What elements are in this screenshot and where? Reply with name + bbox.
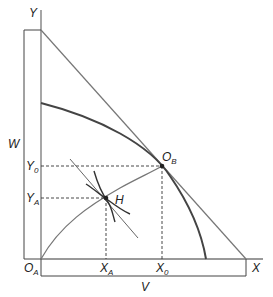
point-h-label: H [115, 193, 124, 207]
ppf-curve [41, 103, 206, 259]
origin-a-label: OA [24, 261, 39, 277]
xa-label: XA [99, 261, 113, 277]
x-axis-label: X [251, 261, 261, 275]
economics-diagram: Y X W V OA OB H Y0 YA XA X0 [0, 0, 273, 297]
v-label: V [141, 280, 150, 294]
budget-line [41, 30, 246, 259]
x0-label: X0 [155, 261, 169, 277]
contract-curve [41, 166, 162, 259]
origin-b-label: OB [162, 150, 177, 166]
v-bracket [41, 259, 246, 276]
point-h [104, 196, 109, 201]
w-label: W [8, 137, 21, 151]
ya-label: YA [26, 191, 39, 207]
point-ob [160, 164, 165, 169]
y-axis-label: Y [29, 6, 38, 20]
y0-label: Y0 [26, 159, 39, 175]
w-bracket [24, 30, 41, 259]
